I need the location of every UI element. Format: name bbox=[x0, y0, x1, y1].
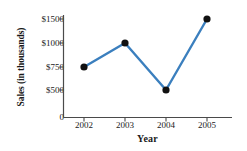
data-point-markers bbox=[80, 15, 210, 93]
data-point-2003 bbox=[121, 39, 128, 46]
data-line bbox=[84, 19, 207, 90]
data-point-2004 bbox=[162, 86, 169, 93]
line-chart: Sales (in thousands) $1500 $1000 $750 $5… bbox=[0, 0, 247, 151]
data-point-2005 bbox=[203, 15, 210, 22]
plot-area bbox=[0, 0, 247, 151]
data-point-2002 bbox=[80, 63, 87, 70]
